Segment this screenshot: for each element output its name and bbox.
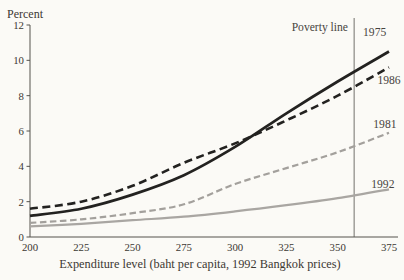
y-tick-label-10: 10	[13, 54, 24, 66]
series-label-1986: 1986	[377, 74, 400, 87]
line-chart: 200225250275300325350375024681012 197519…	[0, 0, 404, 280]
poverty-incidence-chart-figure: 200225250275300325350375024681012 197519…	[0, 0, 404, 280]
axes: 200225250275300325350375024681012	[13, 19, 398, 253]
axis-lines	[30, 25, 398, 237]
series-label-1981: 1981	[373, 118, 396, 131]
chart-text: Percent Expenditure level (baht per capi…	[7, 7, 348, 271]
series-line-1986	[30, 67, 389, 208]
x-tick-label-250: 250	[124, 241, 140, 253]
x-axis-title: Expenditure level (baht per capita, 1992…	[59, 257, 340, 271]
x-tick-label-300: 300	[227, 241, 243, 253]
series-lines: 1975198619811992	[30, 26, 401, 226]
poverty-line-label: Poverty line	[292, 21, 348, 34]
y-tick-label-0: 0	[19, 231, 24, 243]
x-tick-label-200: 200	[22, 241, 38, 253]
y-tick-label-4: 4	[19, 160, 25, 172]
series-label-1992: 1992	[371, 178, 394, 191]
series-label-1975: 1975	[363, 26, 386, 39]
y-axis-title: Percent	[7, 7, 44, 21]
y-tick-label-6: 6	[19, 125, 25, 137]
series-line-1975	[30, 52, 389, 216]
x-tick-label-325: 325	[278, 241, 294, 253]
y-tick-label-2: 2	[19, 196, 24, 208]
y-tick-label-8: 8	[19, 90, 24, 102]
x-tick-label-225: 225	[73, 241, 89, 253]
x-tick-label-375: 375	[381, 241, 397, 253]
x-tick-label-350: 350	[330, 241, 346, 253]
x-tick-label-275: 275	[176, 241, 192, 253]
